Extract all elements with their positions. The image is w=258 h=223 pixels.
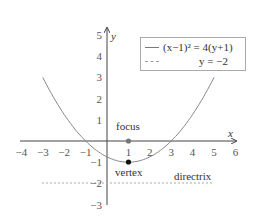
- x-axis-label: x: [227, 127, 233, 139]
- x-tick-label: 6: [233, 146, 239, 158]
- directrix-label: directrix: [174, 170, 212, 182]
- legend-label-directrix: y = −2: [199, 55, 228, 67]
- focus-label: focus: [116, 120, 140, 132]
- x-tick-label: 2: [147, 146, 153, 158]
- y-tick-label: 5: [97, 29, 103, 41]
- chart-legend: (x−1)² = 4(y+1) y = −2: [140, 37, 246, 71]
- y-tick-label: −2: [90, 177, 102, 189]
- legend-item-directrix: y = −2: [145, 54, 228, 68]
- legend-label-parabola: (x−1)² = 4(y+1): [163, 41, 233, 53]
- x-tick-label: −2: [58, 146, 70, 158]
- x-tick-label: −3: [37, 146, 49, 158]
- y-axis-label: y: [110, 30, 116, 42]
- x-tick-label: 3: [168, 146, 174, 158]
- parabola-chart: −4−3−2−1123456 54321−1−2−3 x y focus ver…: [0, 0, 258, 223]
- x-tick-label: 4: [190, 146, 196, 158]
- dashed-line-swatch-icon: [145, 61, 159, 62]
- focus-point: [126, 138, 131, 143]
- vertex-point: [126, 159, 131, 164]
- y-tick-labels: 54321−1−2−3: [90, 29, 102, 211]
- solid-line-swatch-icon: [145, 47, 159, 48]
- vertex-label: vertex: [115, 166, 143, 178]
- y-tick-label: −1: [90, 156, 102, 168]
- y-tick-label: −3: [90, 199, 102, 211]
- y-tick-label: 4: [97, 50, 103, 62]
- y-tick-label: 3: [97, 71, 103, 83]
- y-tick-label: 1: [97, 114, 103, 126]
- x-tick-label: 1: [126, 146, 132, 158]
- x-tick-labels: −4−3−2−1123456: [16, 146, 239, 158]
- legend-item-parabola: (x−1)² = 4(y+1): [145, 40, 233, 54]
- y-tick-label: 2: [97, 93, 103, 105]
- x-tick-label: −4: [16, 146, 28, 158]
- x-tick-label: 5: [211, 146, 217, 158]
